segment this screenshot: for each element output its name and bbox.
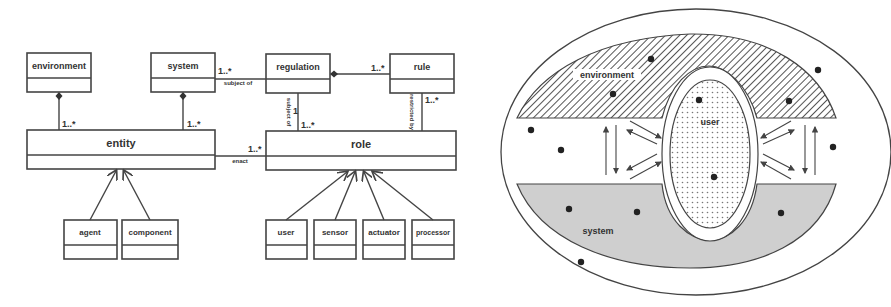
figure-canvas: environment system regulation rule entit… (0, 0, 891, 307)
class-role: role (266, 131, 456, 170)
class-sensor: sensor (314, 220, 356, 259)
svg-text:1..*: 1..* (62, 119, 76, 129)
composition-diamond-icon (56, 92, 63, 100)
class-rule: rule (390, 54, 454, 93)
class-component: component (122, 220, 178, 259)
svg-text:1..*: 1..* (218, 66, 232, 76)
uml-class-diagram: environment system regulation rule entit… (27, 53, 456, 259)
class-name: component (128, 228, 171, 237)
class-entity: entity (27, 130, 215, 169)
class-actuator: actuator (363, 220, 405, 259)
dot-icon (648, 56, 654, 62)
composition-diamond-icon (330, 71, 338, 78)
association-rule-role: restricted by 1..* (409, 93, 439, 131)
dot-icon (634, 209, 640, 215)
class-name: agent (79, 228, 101, 237)
class-name: regulation (276, 62, 320, 72)
dot-icon (566, 206, 572, 212)
composition-diamond-icon (180, 92, 187, 100)
svg-text:1..*: 1..* (187, 119, 201, 129)
class-user: user (266, 220, 307, 259)
domain-venn-diagram: environment user system (501, 9, 891, 295)
dot-icon (778, 210, 784, 216)
user-label: user (700, 117, 720, 127)
svg-text:1..*: 1..* (301, 120, 315, 130)
association-label: subject of (224, 80, 253, 86)
class-agent: agent (64, 220, 117, 259)
association-regulation-role: subject of 1 1..* (286, 93, 315, 131)
svg-text:1..*: 1..* (248, 144, 262, 154)
composition-system-entity: 1..* (180, 92, 202, 130)
association-system-regulation: 1..* subject of (215, 66, 266, 86)
dot-icon (711, 174, 717, 180)
association-entity-role: 1..* enact (215, 144, 266, 164)
class-system: system (151, 53, 215, 92)
class-name: system (167, 61, 198, 71)
svg-text:1: 1 (293, 106, 298, 116)
generalization-agent-entity (90, 171, 116, 220)
class-name: actuator (368, 228, 400, 237)
class-processor: processor (412, 220, 454, 259)
association-label: enact (232, 158, 248, 164)
class-name: sensor (322, 228, 348, 237)
class-name: rule (414, 62, 431, 72)
environment-label: environment (580, 70, 634, 80)
composition-regulation-rule: 1..* (330, 63, 390, 78)
class-regulation: regulation (266, 54, 330, 93)
class-name: role (351, 138, 371, 150)
class-environment: environment (27, 53, 91, 92)
association-label: subject of (286, 98, 292, 127)
class-name: processor (416, 229, 450, 237)
dot-icon (558, 147, 564, 153)
dot-icon (696, 97, 702, 103)
class-name: entity (106, 137, 136, 149)
dot-icon (610, 91, 616, 97)
dot-icon (528, 127, 534, 133)
dot-icon (786, 98, 792, 104)
generalization-component-entity (124, 171, 150, 220)
user-region (670, 80, 750, 228)
dot-icon (830, 144, 836, 150)
class-name: user (278, 228, 295, 237)
composition-environment-entity: 1..* (56, 92, 77, 130)
dot-icon (815, 67, 821, 73)
class-name: environment (32, 61, 86, 71)
svg-text:1..*: 1..* (371, 63, 385, 73)
svg-text:1..*: 1..* (425, 95, 439, 105)
generalization-processor-role (373, 172, 433, 220)
system-label: system (582, 226, 613, 236)
association-label: restricted by (409, 94, 415, 131)
dot-icon (578, 259, 584, 265)
